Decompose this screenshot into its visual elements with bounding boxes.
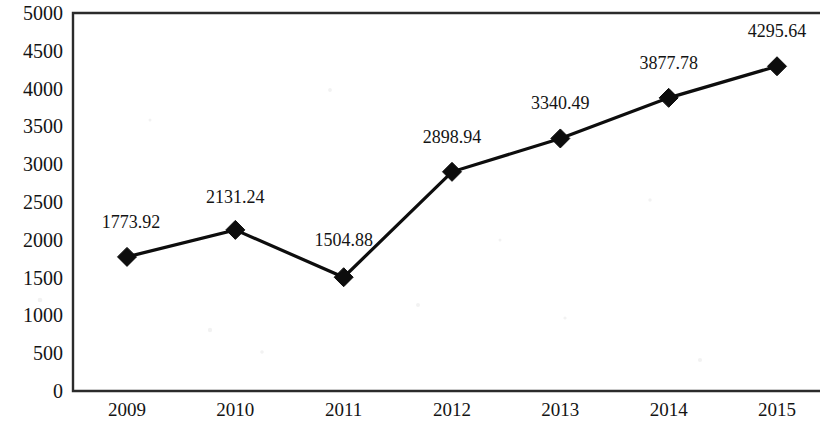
y-axis-tick-label: 4500 [23, 40, 63, 62]
y-axis-tick-label: 0 [53, 380, 63, 402]
y-axis-tick-label: 2500 [23, 191, 63, 213]
data-point-label: 2898.94 [423, 127, 482, 147]
x-axis-tick-label: 2014 [650, 399, 689, 420]
line-chart: 0500100015002000250030003500400045005000… [0, 0, 820, 425]
data-point-label: 3340.49 [531, 93, 590, 113]
x-axis-tick-label: 2010 [216, 399, 254, 420]
x-axis-tick-label: 2013 [541, 399, 579, 420]
y-axis-tick-label: 5000 [23, 2, 63, 24]
y-axis-tick-label: 3000 [23, 153, 63, 175]
data-point-label: 2131.24 [206, 187, 265, 207]
data-point-label: 1773.92 [102, 212, 161, 232]
y-axis-tick-label: 2000 [23, 229, 63, 251]
data-point-label: 1504.88 [314, 230, 373, 250]
x-axis-tick-label: 2012 [433, 399, 471, 420]
x-axis-tick-label: 2011 [325, 399, 362, 420]
x-axis-tick-label: 2009 [108, 399, 146, 420]
chart-canvas: 0500100015002000250030003500400045005000… [0, 0, 820, 425]
x-axis-tick-label: 2015 [758, 399, 796, 420]
y-axis-tick-label: 4000 [23, 78, 63, 100]
data-point-label: 4295.64 [748, 21, 807, 41]
y-axis-tick-label: 1000 [23, 304, 63, 326]
y-axis-tick-label: 3500 [23, 115, 63, 137]
data-point-label: 3877.78 [639, 53, 698, 73]
y-axis-tick-label: 1500 [23, 267, 63, 289]
y-axis-tick-label: 500 [33, 342, 63, 364]
